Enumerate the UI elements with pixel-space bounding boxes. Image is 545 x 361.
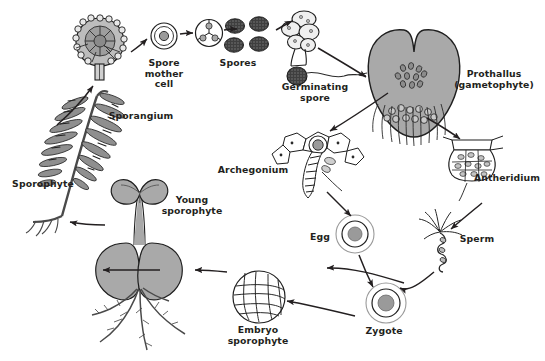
label-sporangium: Sporangium [103, 111, 179, 122]
label-spores: Spores [211, 58, 265, 69]
germinating-spore-illustration [282, 11, 368, 85]
arrow-germinating-to-prothallus [318, 48, 366, 77]
spore-tetrad-illustration [196, 20, 223, 47]
label-archegonium: Archegonium [214, 165, 292, 176]
antheridium-illustration [443, 136, 503, 201]
label-embryo-sporophyte: Embryo sporophyte [219, 325, 297, 346]
arrow-young-to-embryo-link [195, 270, 227, 272]
label-sperm: Sperm [455, 234, 499, 245]
fern-life-cycle-diagram: Sporophyte Sporangium Spore mother cell … [0, 0, 545, 361]
spore-mother-cell-illustration [151, 23, 177, 49]
diagram-canvas [0, 0, 545, 361]
label-sporophyte: Sporophyte [8, 179, 78, 190]
arrow-archegonium-to-egg [327, 192, 351, 216]
arrow-sperm-to-zygote [400, 272, 434, 289]
label-antheridium: Antheridium [470, 173, 544, 184]
sporangium-illustration [73, 15, 127, 80]
zygote-illustration [366, 283, 406, 323]
label-prothallus: Prothallus (gametophyte) [449, 69, 539, 90]
label-young-sporophyte: Young sporophyte [156, 195, 228, 216]
egg-illustration [336, 215, 374, 253]
arrow-antheridium-to-sperm [451, 203, 482, 229]
embryo-sporophyte-illustration [233, 271, 285, 323]
arrow-smc-to-tetrad [180, 33, 193, 34]
label-zygote: Zygote [359, 326, 409, 337]
label-germinating-spore: Germinating spore [275, 82, 355, 103]
arrow-zygote-to-embryo [287, 301, 355, 316]
arrow-young-to-sporophyte [70, 222, 105, 225]
label-spore-mother-cell: Spore mother cell [135, 58, 193, 90]
spores-illustration [225, 17, 269, 52]
arrow-sporangium-to-smc [131, 39, 147, 52]
label-egg: Egg [303, 232, 337, 243]
